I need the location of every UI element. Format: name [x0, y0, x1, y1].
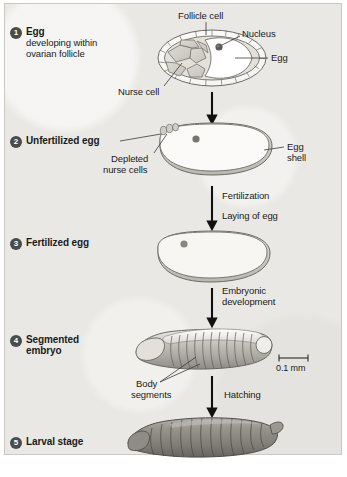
stage-1-subtitle-line2: ovarian follicle — [26, 48, 97, 59]
stage-3-badge: 3 — [10, 238, 22, 250]
label-egg-shell-line2: shell — [287, 152, 306, 163]
stage-2-badge: 2 — [10, 136, 22, 148]
diagram-text-layer: 1 Egg developing within ovarian follicle… — [0, 0, 347, 477]
label-embryonic-development-line2: development — [222, 296, 275, 307]
stage-1-title: Egg — [26, 26, 97, 37]
stage-2-caption: 2 Unfertilized egg — [10, 135, 99, 148]
label-follicle-cell: Follicle cell — [178, 10, 223, 21]
label-body-segments-line1: Body — [136, 378, 157, 389]
stage-5-caption: 5 Larval stage — [10, 436, 83, 449]
label-body-segments-line2: segments — [131, 389, 171, 400]
stage-3-title: Fertilized egg — [26, 237, 89, 248]
label-hatching: Hatching — [224, 389, 261, 400]
stage-4-title: Segmented — [26, 334, 79, 345]
stage-1-badge: 1 — [10, 27, 22, 39]
label-nurse-cell: Nurse cell — [118, 86, 159, 97]
insect-development-diagram: 1 Egg developing within ovarian follicle… — [0, 0, 347, 477]
stage-2-title: Unfertilized egg — [26, 135, 99, 146]
label-depleted-nurse-cells-line2: nurse cells — [103, 164, 147, 175]
stage-4-subtitle-line1: embryo — [26, 345, 79, 356]
stage-5-title: Larval stage — [26, 436, 83, 447]
stage-5-badge: 5 — [10, 437, 22, 449]
stage-3-caption: 3 Fertilized egg — [10, 237, 89, 250]
stage-4-caption: 4 Segmented embryo — [10, 334, 79, 356]
label-embryonic-development-line1: Embryonic — [222, 285, 266, 296]
label-laying-of-egg: Laying of egg — [222, 210, 278, 221]
scale-bar-label: 0.1 mm — [276, 363, 305, 373]
label-egg: Egg — [271, 52, 288, 63]
label-fertilization: Fertilization — [222, 190, 269, 201]
label-egg-shell-line1: Egg — [287, 141, 304, 152]
stage-1-caption: 1 Egg developing within ovarian follicle — [10, 26, 97, 59]
label-nucleus: Nucleus — [242, 28, 276, 39]
stage-4-badge: 4 — [10, 335, 22, 347]
stage-1-subtitle-line1: developing within — [26, 37, 97, 48]
label-depleted-nurse-cells-line1: Depleted — [111, 153, 148, 164]
